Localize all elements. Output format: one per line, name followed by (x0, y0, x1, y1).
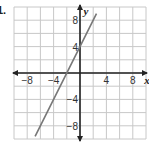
x-tick-label: 8 (130, 75, 136, 86)
y-tick-label: −8 (67, 121, 79, 132)
plotted-line (35, 14, 96, 137)
data-line (35, 14, 96, 137)
x-axis-left-arrow-icon (12, 70, 18, 76)
x-tick-label: −8 (21, 75, 33, 86)
y-axis-label: y (82, 5, 89, 17)
y-tick-label: −4 (67, 94, 79, 105)
y-tick-label: 4 (72, 42, 78, 53)
coordinate-plane-chart: −8−44884−4−8xy (0, 0, 149, 148)
x-tick-label: −4 (48, 75, 60, 86)
y-tick-label: 8 (72, 15, 78, 26)
x-axis-label: x (143, 74, 149, 86)
x-tick-label: 4 (104, 75, 110, 86)
axes (12, 4, 148, 142)
